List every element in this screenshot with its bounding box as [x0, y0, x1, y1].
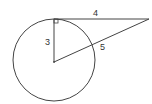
- center-point: [53, 61, 55, 63]
- label-tangent-length: 4: [93, 8, 98, 18]
- secant-line: [54, 19, 149, 62]
- label-segment: 5: [100, 42, 105, 52]
- label-radius: 3: [45, 37, 50, 47]
- geometry-diagram: 4 3 5: [0, 0, 152, 104]
